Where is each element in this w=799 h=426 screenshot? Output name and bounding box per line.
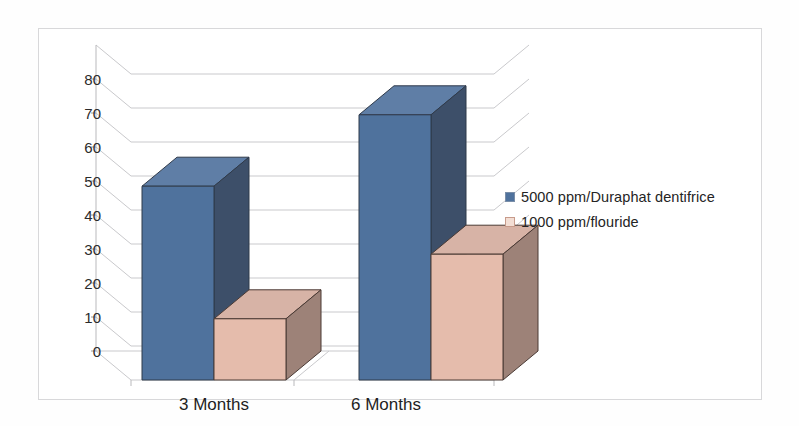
legend-item-1000ppm[interactable]: 1000 ppm/flouride	[505, 214, 715, 230]
y-tick-10: 10	[71, 310, 101, 325]
chart-plot-area: 80 70 60 50 40 30 20 10 0 3 Months 6 Mon…	[39, 29, 763, 401]
y-tick-40: 40	[71, 208, 101, 223]
y-tick-50: 50	[71, 174, 101, 189]
bar-front-face	[214, 319, 286, 380]
bar-6-months-1000ppm[interactable]	[431, 225, 538, 380]
chart-legend: 5000 ppm/Duraphat dentifrice 1000 ppm/fl…	[505, 189, 715, 239]
x-label-3-months: 3 Months	[149, 395, 279, 415]
y-tick-0: 0	[71, 344, 101, 359]
legend-swatch-blue	[505, 192, 515, 202]
chart-frame: 80 70 60 50 40 30 20 10 0 3 Months 6 Mon…	[38, 28, 762, 400]
bar-front-face	[142, 186, 214, 380]
y-tick-20: 20	[71, 276, 101, 291]
bar-front-face	[359, 115, 431, 380]
legend-label-5000ppm: 5000 ppm/Duraphat dentifrice	[521, 189, 715, 205]
bar-front-face	[431, 254, 503, 380]
legend-item-5000ppm[interactable]: 5000 ppm/Duraphat dentifrice	[505, 189, 715, 205]
y-tick-30: 30	[71, 242, 101, 257]
x-tick-marks	[131, 380, 494, 386]
page-background: 80 70 60 50 40 30 20 10 0 3 Months 6 Mon…	[0, 0, 799, 426]
y-tick-80: 80	[71, 72, 101, 87]
y-tick-60: 60	[71, 140, 101, 155]
y-axis-labels: 80 70 60 50 40 30 20 10 0	[59, 29, 101, 401]
legend-swatch-pink	[505, 217, 515, 227]
legend-label-1000ppm: 1000 ppm/flouride	[521, 214, 639, 230]
bar-group-3-months	[142, 157, 321, 380]
y-tick-70: 70	[71, 106, 101, 121]
x-label-6-months: 6 Months	[321, 395, 451, 415]
